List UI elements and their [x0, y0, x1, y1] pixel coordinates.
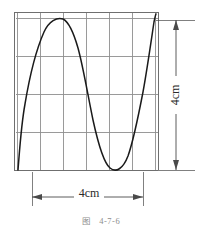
figure-sine-wave-on-grid: 4cm 4cm 4cm — [0, 0, 202, 234]
figure-caption: 图 4-7-6 — [0, 214, 202, 226]
vertical-dimension-label-visible: 4cm — [168, 84, 182, 105]
horizontal-dimension-label: 4cm — [79, 186, 100, 200]
